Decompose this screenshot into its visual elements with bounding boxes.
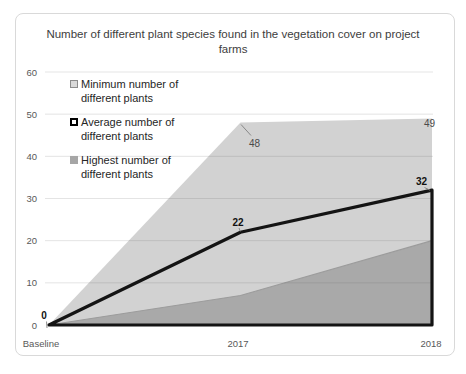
y-tick-label: 40	[26, 151, 37, 162]
chart-screenshot: 0223248490102030405060Baseline20172018 N…	[0, 0, 466, 374]
legend-item-average: Average number of different plants	[70, 115, 196, 143]
data-label: 48	[249, 138, 261, 149]
y-tick-label: 10	[26, 277, 37, 288]
y-tick-label: 30	[26, 193, 37, 204]
legend-label-minimum: Minimum number of different plants	[81, 77, 196, 105]
average-series-marker-icon	[70, 118, 78, 126]
y-tick-label: 20	[26, 235, 37, 246]
legend: Minimum number of different plants Avera…	[70, 77, 196, 181]
y-axis-labels: 0102030405060	[26, 67, 37, 331]
chart-title: Number of different plant species found …	[33, 27, 433, 57]
data-label: 0	[41, 310, 47, 321]
y-tick-label: 50	[26, 109, 37, 120]
y-tick-label: 60	[26, 67, 37, 78]
label-leader-line	[47, 322, 48, 329]
y-tick-label: 0	[32, 320, 37, 331]
data-label: 32	[416, 176, 428, 187]
data-label: 22	[232, 217, 244, 228]
legend-label-average: Average number of different plants	[81, 115, 196, 143]
x-category-label: Baseline	[23, 338, 59, 349]
legend-item-minimum: Minimum number of different plants	[70, 77, 196, 105]
x-category-label: 2017	[227, 338, 248, 349]
highest-series-marker-icon	[70, 156, 78, 164]
data-label: 49	[424, 118, 436, 129]
legend-item-highest: Highest number of different plants	[70, 153, 196, 181]
x-category-label: 2018	[420, 338, 441, 349]
legend-label-highest: Highest number of different plants	[81, 153, 196, 181]
minimum-series-marker-icon	[70, 80, 78, 88]
